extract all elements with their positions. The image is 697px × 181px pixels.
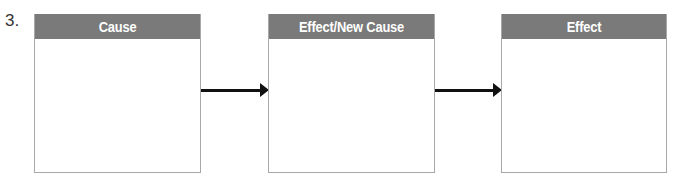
cause-header: Cause [35,14,200,39]
effect-new-cause-box[interactable]: Effect/New Cause [268,14,435,173]
item-number: 3. [5,11,19,31]
arrow-icon [435,84,503,96]
effect-box[interactable]: Effect [501,14,667,173]
effect-header: Effect [502,14,666,39]
arrow-icon [201,84,269,96]
cause-label: Cause [42,14,194,39]
effect-new-cause-label: Effect/New Cause [276,14,428,39]
cause-box[interactable]: Cause [34,14,201,173]
effect-label: Effect [509,14,660,39]
effect-new-cause-header: Effect/New Cause [269,14,434,39]
